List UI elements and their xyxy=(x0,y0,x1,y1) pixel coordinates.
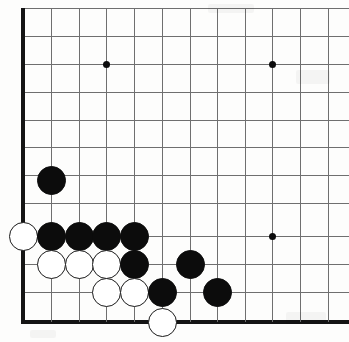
go-board-diagram xyxy=(0,0,349,342)
black-stone-9[interactable] xyxy=(203,278,232,307)
black-stone-2[interactable] xyxy=(37,222,66,251)
white-stone-1[interactable] xyxy=(9,222,38,251)
white-stone-4[interactable] xyxy=(92,250,121,279)
white-stone-5[interactable] xyxy=(92,278,121,307)
white-stone-6[interactable] xyxy=(120,278,149,307)
white-stone-2[interactable] xyxy=(37,250,66,279)
white-stone-7[interactable] xyxy=(148,308,177,337)
black-stone-6[interactable] xyxy=(120,250,149,279)
black-stone-1[interactable] xyxy=(37,166,66,195)
white-stone-3[interactable] xyxy=(65,250,94,279)
black-stone-3[interactable] xyxy=(65,222,94,251)
board-stones xyxy=(0,0,349,342)
paper-speck xyxy=(30,330,56,338)
black-stone-7[interactable] xyxy=(176,250,205,279)
paper-speck xyxy=(208,4,254,13)
black-stone-8[interactable] xyxy=(148,278,177,307)
paper-speck xyxy=(286,312,326,324)
black-stone-4[interactable] xyxy=(92,222,121,251)
paper-speck xyxy=(296,70,330,84)
black-stone-5[interactable] xyxy=(120,222,149,251)
